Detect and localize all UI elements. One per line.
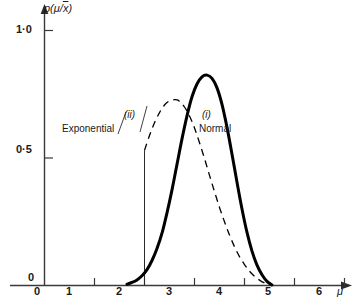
series-curve-normal	[127, 75, 272, 285]
x-tick-label-0: 0	[34, 286, 40, 297]
x-tick-label-6: 6	[316, 286, 322, 297]
x-axis	[10, 281, 352, 289]
y-axis	[41, 4, 49, 285]
x-axis-title: μ	[337, 286, 343, 297]
x-tick-label-4: 4	[216, 286, 222, 297]
chart-plot-area	[0, 0, 354, 303]
annotation-exponential-name: Exponential	[62, 124, 114, 134]
annotation-normal-name: Normal	[199, 124, 231, 134]
annotation-exponential-roman: (ii)	[124, 110, 135, 120]
x-tick-label-1: 1	[66, 286, 72, 297]
chart-container: p(μ/x) 1·0 0·5 0 0 1 2 3 4 5 6 μ (ii) Ex…	[0, 0, 354, 303]
y-tick-label-1-0: 1·0	[16, 24, 32, 35]
y-axis-title-prefix: p(μ/	[44, 2, 63, 14]
y-tick-label-0: 0	[28, 272, 34, 283]
x-tick-label-5: 5	[265, 286, 271, 297]
y-tick-label-0-5: 0·5	[16, 144, 32, 155]
x-tick-label-3: 3	[166, 286, 172, 297]
x-tick-label-2: 2	[116, 286, 122, 297]
annotation-normal-roman: (i)	[202, 110, 211, 120]
y-axis-title-suffix: )	[68, 2, 72, 14]
y-axis-title: p(μ/x)	[44, 3, 72, 14]
y-axis-ticks	[45, 31, 54, 159]
